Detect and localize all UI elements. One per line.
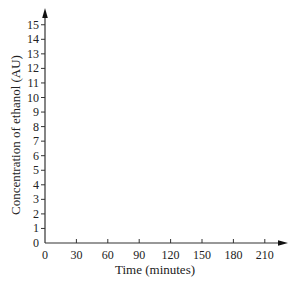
y-tick-label: 4: [33, 178, 39, 192]
x-tick-label: 0: [42, 248, 48, 262]
y-tick-label: 2: [33, 207, 39, 221]
chart-svg: 0123456789101112131415 03060901201501802…: [0, 0, 293, 284]
y-axis-arrow-icon: [42, 8, 48, 18]
x-tick-label: 30: [70, 248, 82, 262]
x-axis: 0306090120150180210: [42, 239, 288, 262]
x-tick-label: 90: [133, 248, 145, 262]
y-tick-label: 15: [27, 18, 39, 32]
x-tick-label: 150: [193, 248, 211, 262]
y-tick-label: 11: [27, 76, 39, 90]
y-tick-label: 3: [33, 192, 39, 206]
x-axis-label: Time (minutes): [115, 262, 195, 277]
x-tick-label: 210: [256, 248, 274, 262]
y-axis: 0123456789101112131415: [27, 8, 48, 250]
y-axis-label: Concentration of ethanol (AU): [8, 55, 23, 215]
chart-container: 0123456789101112131415 03060901201501802…: [0, 0, 293, 284]
y-tick-label: 0: [33, 236, 39, 250]
y-tick-label: 5: [33, 163, 39, 177]
x-tick-label: 60: [102, 248, 114, 262]
x-tick-label: 180: [224, 248, 242, 262]
y-tick-label: 1: [33, 221, 39, 235]
x-tick-label: 120: [162, 248, 180, 262]
y-tick-label: 6: [33, 149, 39, 163]
y-tick-label: 12: [27, 61, 39, 75]
x-axis-arrow-icon: [278, 240, 288, 246]
y-tick-label: 13: [27, 47, 39, 61]
y-tick-label: 14: [27, 32, 39, 46]
y-tick-label: 9: [33, 105, 39, 119]
y-tick-label: 8: [33, 120, 39, 134]
y-tick-label: 7: [33, 134, 39, 148]
y-tick-label: 10: [27, 91, 39, 105]
